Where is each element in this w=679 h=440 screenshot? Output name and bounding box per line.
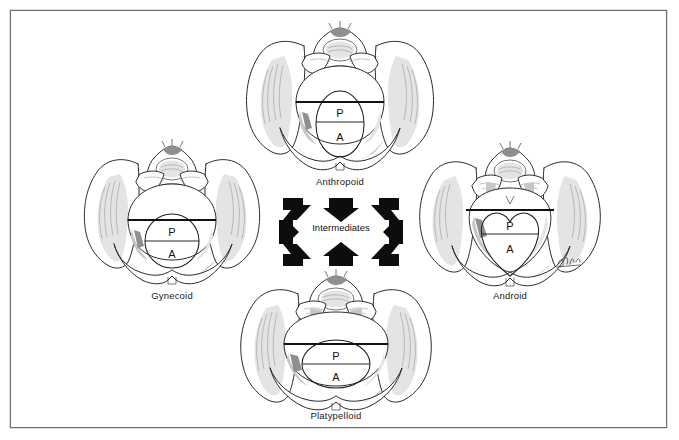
gynecoid-bone-outline (84, 139, 259, 284)
arrow-down-right-icon (283, 198, 311, 220)
android-anterior-label: A (506, 243, 514, 255)
android-posterior-label: P (506, 220, 513, 232)
platypelloid-illustration: P A (228, 268, 444, 410)
platypelloid-posterior-label: P (332, 350, 339, 362)
arrow-up-icon (323, 242, 359, 266)
anthropoid-posterior-label: P (336, 107, 343, 119)
intermediates-label: Intermediates (277, 222, 405, 233)
arrow-down-icon (323, 198, 359, 222)
gynecoid-illustration: P A (72, 138, 272, 288)
android-bone-outline (420, 141, 601, 286)
pelvis-types-figure: P A Anthropoid (0, 0, 679, 440)
gynecoid-posterior-label: P (168, 226, 175, 238)
platypelloid-anterior-label: A (332, 371, 340, 383)
anthropoid-anterior-label: A (336, 131, 344, 143)
platypelloid-caption: Platypelloid (228, 410, 444, 421)
arrow-down-left-icon (371, 198, 399, 220)
gynecoid-anterior-label: A (168, 248, 176, 260)
anthropoid-bone-outline (247, 21, 434, 170)
pelvis-platypelloid: P A Platypelloid (228, 268, 444, 428)
arrow-up-left-icon (371, 244, 399, 266)
arrow-up-right-icon (283, 244, 311, 266)
intermediates-group: Intermediates (277, 196, 405, 268)
